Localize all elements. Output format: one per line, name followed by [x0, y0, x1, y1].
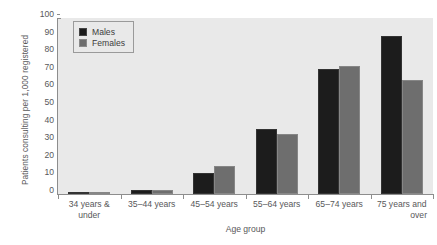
bar-group: [318, 18, 360, 194]
legend-item-females: Females: [79, 37, 125, 48]
y-axis: 0102030405060708090100: [30, 14, 58, 198]
bar-males: [381, 36, 402, 194]
bar-males: [318, 69, 339, 194]
x-axis-tick-mark: [371, 195, 372, 199]
bar-females: [339, 66, 360, 194]
legend-swatch-females-icon: [79, 39, 87, 47]
x-axis-tick-mark: [121, 195, 122, 199]
x-axis-tick-mark: [246, 195, 247, 199]
y-axis-title: Patients consulting per 1,000 registered: [20, 15, 30, 205]
x-label-line: 34 years &: [58, 199, 121, 210]
x-label-line: 55–64 years: [246, 199, 309, 210]
x-axis-tick-mark: [58, 195, 59, 199]
y-axis-tick-label: 30: [32, 132, 54, 142]
legend-label-males: Males: [92, 27, 115, 37]
x-axis-tick-mark: [433, 195, 434, 199]
x-label-line: 65–74 years: [308, 199, 371, 210]
y-axis-tick-label: 90: [32, 27, 54, 37]
y-axis-tick-label: 80: [32, 44, 54, 54]
bar-females: [152, 190, 173, 194]
x-label-line: under: [58, 210, 121, 221]
bar-males: [131, 190, 152, 194]
legend-label-females: Females: [92, 38, 125, 48]
bar-females: [89, 192, 110, 194]
bar-females: [402, 80, 423, 194]
bar-males: [68, 192, 89, 194]
y-axis-tick-mark: [57, 14, 60, 15]
bar-males: [256, 129, 277, 194]
y-axis-tick-label: 70: [32, 62, 54, 72]
x-label-line: 35–44 years: [121, 199, 184, 210]
bar-group: [193, 18, 235, 194]
x-axis-tick-label: 34 years &under: [58, 199, 121, 221]
bar-chart-figure: Patients consulting per 1,000 registered…: [0, 0, 437, 245]
bar-group: [381, 18, 423, 194]
bar-females: [277, 134, 298, 194]
bar-males: [193, 173, 214, 194]
y-axis-tick-label: 10: [32, 167, 54, 177]
x-axis-tick-mark: [183, 195, 184, 199]
bar-group: [131, 18, 173, 194]
legend-swatch-males-icon: [79, 28, 87, 36]
x-axis-tick-label: 65–74 years: [308, 199, 371, 210]
y-axis-tick-label: 50: [32, 97, 54, 107]
x-axis-tick-label: 35–44 years: [121, 199, 184, 210]
legend-item-males: Males: [79, 26, 125, 37]
x-label-line: 75 years and: [371, 199, 434, 210]
x-label-line: over: [371, 210, 434, 221]
x-axis-tick-label: 75 years andover: [371, 199, 434, 221]
x-axis-tick-mark: [308, 195, 309, 199]
x-axis-tick-label: 45–54 years: [183, 199, 246, 210]
x-axis-tick-label: 55–64 years: [246, 199, 309, 210]
x-axis-title: Age group: [58, 224, 433, 234]
bar-group: [256, 18, 298, 194]
x-label-line: 45–54 years: [183, 199, 246, 210]
chart-legend: Males Females: [73, 21, 134, 53]
bar-females: [214, 166, 235, 194]
y-axis-tick-label: 100: [32, 9, 54, 19]
y-axis-tick-label: 40: [32, 115, 54, 125]
y-axis-tick-label: 60: [32, 79, 54, 89]
y-axis-tick-label: 20: [32, 150, 54, 160]
y-axis-tick-label: 0: [32, 185, 54, 195]
